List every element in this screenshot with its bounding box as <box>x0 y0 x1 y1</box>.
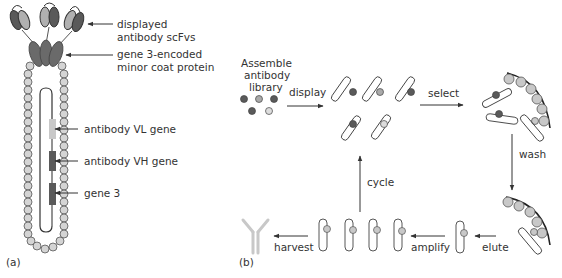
antibody-icon <box>243 220 268 253</box>
eluted-phage <box>456 221 468 253</box>
step-cycle: cycle <box>367 176 394 188</box>
phage-particle <box>8 3 86 253</box>
step-amplify: amplify <box>411 241 450 253</box>
step-elute: elute <box>482 241 509 253</box>
label-scfv-2: antibody scFvs <box>117 31 195 43</box>
label-coat-2: minor coat protein <box>117 61 214 73</box>
label-vl-gene: antibody VL gene <box>84 123 176 135</box>
amplified-phages <box>319 219 406 251</box>
gene3-block <box>49 183 56 205</box>
library-label-3: library <box>249 81 283 93</box>
elution-surface <box>503 197 550 256</box>
step-wash: wash <box>519 148 546 160</box>
label-scfv-1: displayed <box>117 18 167 30</box>
label-coat-1: gene 3-encoded <box>117 48 202 60</box>
vh-gene-block <box>49 151 56 171</box>
antibody-library-dots <box>241 96 278 115</box>
library-label-2: antibody <box>244 69 290 81</box>
capsid-beads <box>24 62 68 253</box>
label-gene3: gene 3 <box>84 187 120 199</box>
step-select: select <box>428 87 459 99</box>
vl-gene-block <box>49 119 56 139</box>
step-display: display <box>289 86 326 98</box>
selection-surface <box>481 73 550 143</box>
library-label-1: Assemble <box>241 57 292 69</box>
phage-display-diagram: displayed antibody scFvs gene 3-encoded … <box>0 0 562 278</box>
label-vh-gene: antibody VH gene <box>84 155 178 167</box>
scfv-heads <box>8 3 86 33</box>
panel-b-tag: (b) <box>239 256 254 268</box>
displayed-phages <box>330 76 416 142</box>
step-harvest: harvest <box>274 241 314 253</box>
panel-a-tag: (a) <box>6 256 21 268</box>
